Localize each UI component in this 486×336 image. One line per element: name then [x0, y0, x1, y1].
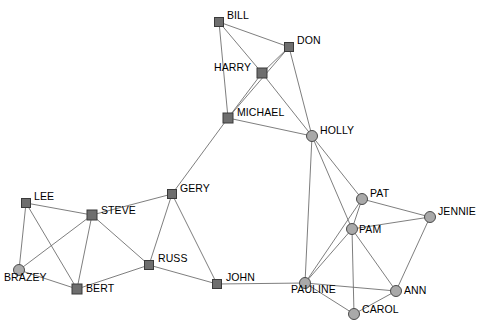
- graph-node-label-brazey: BRAZEY: [4, 272, 47, 283]
- graph-node-carol[interactable]: [349, 309, 360, 320]
- graph-node-ann[interactable]: [391, 286, 402, 297]
- graph-node-steve[interactable]: [87, 210, 97, 220]
- graph-edge: [396, 217, 430, 291]
- graph-edge: [362, 199, 430, 217]
- graph-node-label-harry: HARRY: [214, 62, 251, 73]
- graph-edge: [289, 47, 312, 136]
- graph-node-label-pam: PAM: [359, 224, 381, 235]
- graph-node-jennie[interactable]: [425, 212, 436, 223]
- graph-node-label-steve: STEVE: [101, 205, 136, 216]
- graph-node-label-jennie: JENNIE: [438, 206, 476, 217]
- graph-node-pat[interactable]: [357, 194, 368, 205]
- graph-node-russ[interactable]: [145, 261, 154, 270]
- graph-node-label-bill: BILL: [227, 10, 249, 21]
- graph-edge: [305, 229, 352, 283]
- graph-edge: [312, 136, 352, 229]
- graph-node-gery[interactable]: [168, 190, 177, 199]
- graph-node-label-carol: CAROL: [362, 304, 399, 315]
- graph-edge: [26, 203, 92, 215]
- graph-edge: [305, 136, 312, 283]
- graph-node-bert[interactable]: [72, 284, 82, 294]
- graph-edge: [305, 199, 362, 283]
- graph-edge: [352, 229, 354, 314]
- graph-node-label-russ: RUSS: [158, 253, 188, 264]
- graph-node-label-pauline: PAULINE: [291, 284, 336, 295]
- graph-node-pam[interactable]: [347, 224, 358, 235]
- graph-node-lee[interactable]: [22, 199, 31, 208]
- graph-node-michael[interactable]: [223, 113, 233, 123]
- graph-node-label-lee: LEE: [34, 191, 54, 202]
- graph-node-john[interactable]: [213, 280, 222, 289]
- graph-edge: [172, 194, 217, 284]
- network-graph: BILLDONHARRYMICHAELHOLLYGERYPATLEESTEVEJ…: [0, 0, 486, 336]
- graph-edge: [19, 215, 92, 270]
- graph-node-don[interactable]: [285, 43, 294, 52]
- graph-edge: [77, 215, 92, 289]
- graph-node-holly[interactable]: [307, 131, 318, 142]
- graph-node-label-gery: GERY: [180, 183, 210, 194]
- graph-edge: [312, 136, 362, 199]
- graph-node-label-ann: ANN: [404, 285, 426, 296]
- graph-edge: [352, 229, 396, 291]
- graph-edge: [19, 203, 26, 270]
- graph-node-bill[interactable]: [215, 18, 224, 27]
- graph-node-label-pat: PAT: [370, 188, 389, 199]
- graph-node-label-bert: BERT: [86, 283, 114, 294]
- graph-edge: [149, 265, 217, 284]
- graph-node-label-don: DON: [297, 35, 321, 46]
- graph-node-label-michael: MICHAEL: [237, 107, 284, 118]
- graph-edge: [92, 215, 149, 265]
- graph-node-harry[interactable]: [257, 68, 267, 78]
- graph-node-label-holly: HOLLY: [320, 125, 354, 136]
- graph-node-label-john: JOHN: [226, 272, 255, 283]
